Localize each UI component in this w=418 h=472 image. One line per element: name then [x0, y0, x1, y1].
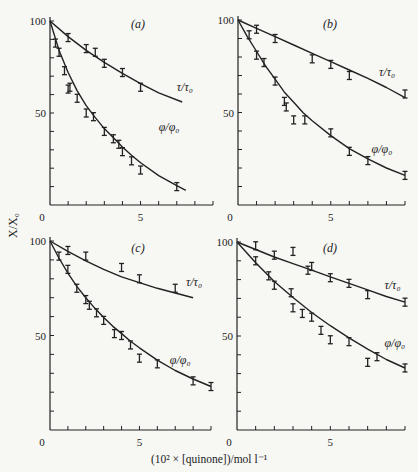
series-label: φ/φ₀ — [159, 120, 180, 134]
panel-a: 0550100(a)τ/τ₀φ/φ₀ — [30, 15, 214, 223]
fit-curve-tau — [237, 242, 405, 302]
data-point — [319, 326, 324, 334]
data-point — [347, 147, 352, 155]
x-tick-label: 5 — [137, 436, 143, 448]
figure: 0550100(a)τ/τ₀φ/φ₀0550100(b)τ/τ₀φ/φ₀0550… — [0, 0, 418, 472]
x-tick-label: 0 — [227, 211, 233, 223]
data-point — [209, 383, 214, 391]
data-point — [138, 166, 143, 174]
y-axis-label: X/X₀ — [2, 200, 26, 240]
y-tick-label: 50 — [35, 107, 47, 119]
plot-area: 0550100(a)τ/τ₀φ/φ₀0550100(b)τ/τ₀φ/φ₀0550… — [0, 0, 418, 472]
panel-label: (a) — [131, 17, 145, 31]
y-tick-label: 50 — [35, 330, 47, 342]
data-point — [291, 304, 296, 312]
panel-label: (c) — [131, 241, 144, 255]
panel-c: 0550100(c)τ/τ₀φ/φ₀ — [30, 235, 214, 448]
data-point — [83, 252, 88, 260]
data-point — [101, 316, 106, 324]
y-axis-label-text: X/X₀ — [6, 213, 21, 238]
data-point — [347, 72, 352, 80]
series-label: φ/φ₀ — [170, 353, 191, 367]
series-label: τ/τ₀ — [384, 278, 400, 292]
data-point — [129, 157, 134, 165]
data-point — [75, 94, 80, 102]
panel-b: 0550100(b)τ/τ₀φ/φ₀ — [218, 14, 408, 223]
y-tick-label: 50 — [223, 107, 235, 119]
data-point — [266, 272, 271, 280]
data-point — [291, 247, 296, 255]
fit-curve-phi — [237, 242, 405, 368]
data-point — [102, 127, 107, 135]
data-point — [289, 289, 294, 297]
series-label: φ/φ₀ — [372, 142, 393, 156]
data-point — [291, 116, 296, 124]
x-tick-label: 5 — [328, 436, 334, 448]
y-tick-label: 100 — [217, 236, 234, 248]
series-label: τ/τ₀ — [186, 275, 202, 289]
fit-curve-phi — [50, 21, 186, 190]
x-tick-label: 0 — [39, 436, 45, 448]
y-tick-label: 100 — [30, 235, 47, 247]
x-tick-label: 5 — [138, 211, 144, 223]
data-point — [328, 129, 333, 137]
panel-d: 0550100(d)τ/τ₀φ/φ₀ — [217, 236, 408, 448]
data-point — [365, 291, 370, 299]
panel-label: (d) — [323, 241, 337, 255]
x-tick-label: 5 — [328, 211, 334, 223]
series-label: τ/τ₀ — [379, 65, 395, 79]
panel-label: (b) — [323, 17, 337, 31]
y-tick-label: 100 — [30, 15, 47, 27]
data-point — [137, 354, 142, 362]
series-label: τ/τ₀ — [177, 80, 193, 94]
data-point — [300, 309, 305, 317]
data-point — [112, 330, 117, 338]
x-tick-label: 0 — [39, 211, 45, 223]
data-point — [328, 60, 333, 68]
x-axis-label: (10² × [quinone])/mol l⁻¹ — [0, 452, 418, 466]
data-point — [119, 263, 124, 271]
y-tick-label: 50 — [222, 330, 234, 342]
data-point — [365, 358, 370, 366]
y-tick-label: 100 — [218, 14, 235, 26]
data-point — [173, 284, 178, 292]
x-tick-label: 0 — [226, 436, 232, 448]
data-point — [302, 116, 307, 124]
series-label: φ/φ₀ — [384, 336, 405, 350]
data-point — [84, 109, 89, 117]
data-point — [87, 301, 92, 309]
data-point — [310, 55, 315, 63]
data-point — [328, 336, 333, 344]
